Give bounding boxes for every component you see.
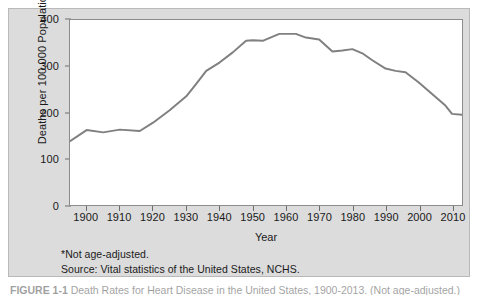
footnote-source: Source: Vital statistics of the United S… [61, 262, 461, 277]
y-tick-label: 100 [27, 154, 59, 165]
x-axis-ticks: 1900191019201930194019501960197019801990… [69, 206, 463, 230]
figure-caption-label: FIGURE 1-1 [10, 284, 68, 295]
figure-panel: Deaths per 100,000 Population 0100200300… [8, 8, 470, 277]
x-tick-label: 2010 [431, 212, 475, 223]
line-chart-svg [70, 20, 462, 205]
plot-area [69, 19, 463, 206]
data-series-line [70, 34, 462, 141]
footnotes: *Not age-adjusted. Source: Vital statist… [61, 247, 461, 277]
x-axis-title: Year [69, 231, 463, 243]
y-tick-label: 0 [27, 201, 59, 212]
footnote-not-age-adjusted: *Not age-adjusted. [61, 247, 461, 262]
y-tick-label: 400 [27, 14, 59, 25]
figure-caption-text: Death Rates for Heart Disease in the Uni… [71, 284, 460, 295]
y-axis-ticks: 0100200300400 [21, 19, 67, 206]
figure-caption: FIGURE 1-1 Death Rates for Heart Disease… [10, 284, 470, 295]
y-tick-label: 300 [27, 60, 59, 71]
y-tick-label: 200 [27, 107, 59, 118]
